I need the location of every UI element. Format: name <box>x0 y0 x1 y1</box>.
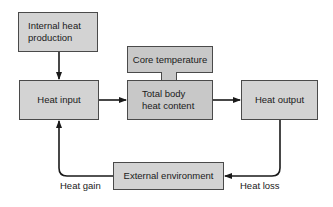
node-label: Core temperature <box>133 54 207 66</box>
arrow-heat-gain <box>59 121 113 176</box>
node-internal-heat-production: Internal heat production <box>18 12 98 52</box>
arrow-heat-loss <box>225 120 280 176</box>
node-heat-output: Heat output <box>241 80 318 120</box>
node-total-body-heat-content: Total body heat content <box>127 80 213 120</box>
label-heat-loss: Heat loss <box>240 180 280 192</box>
node-label: Heat output <box>255 94 304 106</box>
node-label: Heat input <box>37 94 80 106</box>
node-external-environment: External environment <box>113 162 224 190</box>
node-label: External environment <box>124 170 214 182</box>
node-heat-input: Heat input <box>19 80 99 120</box>
node-label: Total body heat content <box>142 88 202 112</box>
node-label: Internal heat production <box>28 20 97 44</box>
label-heat-gain: Heat gain <box>60 180 101 192</box>
node-core-temperature: Core temperature <box>127 46 213 73</box>
